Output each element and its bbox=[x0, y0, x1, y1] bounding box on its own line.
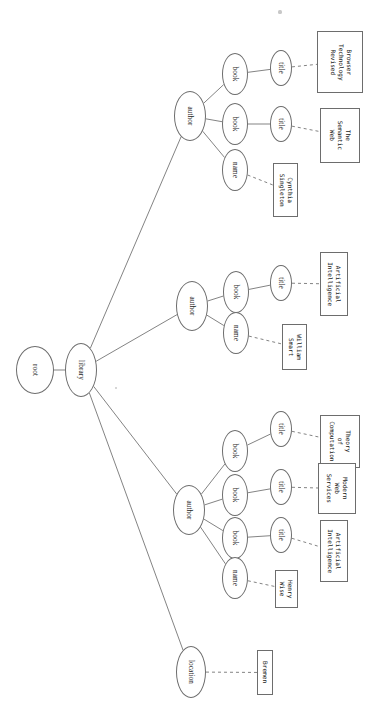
node-title3c[interactable]: title bbox=[270, 517, 292, 553]
node-label: author bbox=[185, 501, 193, 520]
edge-solid bbox=[248, 489, 270, 493]
leaf-label: Bremen bbox=[261, 661, 269, 683]
leaf-label: Browser Technology Revised bbox=[328, 44, 353, 81]
node-label: author bbox=[188, 297, 196, 316]
leaf-modern-web-services[interactable]: Modern Web Services bbox=[318, 463, 356, 514]
edge-solid bbox=[204, 519, 223, 531]
node-label: book bbox=[231, 488, 239, 503]
edge-solid bbox=[208, 296, 224, 301]
node-label: name bbox=[231, 570, 239, 586]
node-label: title bbox=[277, 529, 285, 541]
node-label: name bbox=[232, 325, 240, 341]
edge-dashed bbox=[292, 538, 320, 547]
leaf-the-semantic-web[interactable]: The Semantic Web bbox=[320, 108, 360, 163]
edge-solid bbox=[247, 434, 270, 445]
leaf-bremen[interactable]: Bremen bbox=[257, 650, 273, 695]
node-label: book bbox=[231, 67, 239, 82]
edge-solid bbox=[249, 285, 270, 289]
edge-solid bbox=[205, 499, 223, 505]
node-label: book bbox=[231, 444, 239, 459]
edge-solid bbox=[248, 536, 270, 537]
speck-mark bbox=[278, 10, 281, 13]
edge-solid bbox=[204, 85, 224, 104]
edge-solid bbox=[248, 69, 270, 72]
leaf-william-smart[interactable]: William Smart bbox=[282, 324, 307, 370]
node-library[interactable]: library bbox=[65, 343, 97, 397]
leaf-artificial-intelligence-1[interactable]: Artificial Intelligence bbox=[320, 252, 348, 316]
leaf-label: Artificial Intelligence bbox=[326, 529, 342, 573]
edge-dashed bbox=[292, 126, 320, 131]
edge-solid bbox=[89, 393, 183, 650]
edge-solid bbox=[206, 119, 222, 122]
node-book3a[interactable]: book bbox=[222, 430, 248, 472]
node-book1a[interactable]: book bbox=[222, 53, 248, 95]
edge-dashed bbox=[292, 64, 317, 67]
leaf-artificial-intelligence-2[interactable]: Artificial Intelligence bbox=[320, 520, 348, 582]
node-title3a[interactable]: title bbox=[270, 411, 292, 447]
edge-dashed bbox=[292, 487, 318, 488]
node-label: root bbox=[31, 364, 39, 376]
node-title1a[interactable]: title bbox=[270, 50, 292, 86]
leaf-label: Artificial Intelligence bbox=[326, 262, 342, 306]
node-book1b[interactable]: book bbox=[222, 103, 248, 145]
node-label: title bbox=[277, 423, 285, 435]
node-label: title bbox=[277, 277, 285, 289]
leaf-label: Henry Wise bbox=[278, 580, 294, 598]
node-title3b[interactable]: title bbox=[270, 469, 292, 505]
leaf-label: Modern Web Services bbox=[325, 474, 350, 503]
leaf-label: Theory of Computation bbox=[328, 421, 353, 461]
node-book2a[interactable]: book bbox=[223, 271, 249, 313]
leaf-label: William Smart bbox=[286, 334, 302, 360]
node-location[interactable]: location bbox=[176, 646, 206, 698]
node-label: title bbox=[277, 62, 285, 74]
edge-solid bbox=[207, 315, 224, 325]
diagram-canvas: rootlibraryauthorbooktitlebooktitlenamea… bbox=[0, 0, 376, 726]
node-book3c[interactable]: book bbox=[222, 517, 248, 559]
node-root[interactable]: root bbox=[16, 346, 54, 394]
node-label: book bbox=[231, 531, 239, 546]
edge-solid bbox=[203, 131, 225, 157]
node-label: name bbox=[231, 162, 239, 178]
leaf-label: Cynthia Singleton bbox=[277, 173, 293, 206]
node-name2[interactable]: name bbox=[223, 312, 249, 354]
leaf-label: The Semantic Web bbox=[328, 121, 353, 150]
node-title2a[interactable]: title bbox=[270, 265, 292, 301]
edge-dashed bbox=[292, 283, 320, 284]
node-author1[interactable]: author bbox=[174, 91, 206, 141]
node-author3[interactable]: author bbox=[173, 485, 205, 535]
node-label: location bbox=[187, 660, 195, 684]
leaf-browser-technology-revised[interactable]: Browser Technology Revised bbox=[317, 31, 363, 93]
edge-dashed bbox=[248, 581, 275, 587]
leaf-theory-of-computation[interactable]: Theory of Computation bbox=[320, 415, 360, 468]
node-label: library bbox=[77, 360, 85, 380]
leaf-cynthia-singleton[interactable]: Cynthia Singleton bbox=[273, 163, 298, 217]
node-label: book bbox=[231, 117, 239, 132]
node-label: title bbox=[277, 481, 285, 493]
leaf-henry-wise[interactable]: Henry Wise bbox=[275, 570, 298, 608]
edge-dashed bbox=[248, 175, 273, 185]
node-name1[interactable]: name bbox=[222, 149, 248, 191]
edge-solid bbox=[90, 137, 181, 348]
node-author2[interactable]: author bbox=[176, 281, 208, 331]
node-book3b[interactable]: book bbox=[222, 474, 248, 516]
edge-solid bbox=[96, 315, 177, 362]
edge-dashed bbox=[292, 431, 320, 437]
edge-dashed bbox=[249, 336, 282, 344]
node-label: book bbox=[232, 285, 240, 300]
node-title1b[interactable]: title bbox=[270, 106, 292, 142]
node-label: title bbox=[277, 118, 285, 130]
node-name3[interactable]: name bbox=[222, 557, 248, 599]
node-label: author bbox=[186, 107, 194, 126]
